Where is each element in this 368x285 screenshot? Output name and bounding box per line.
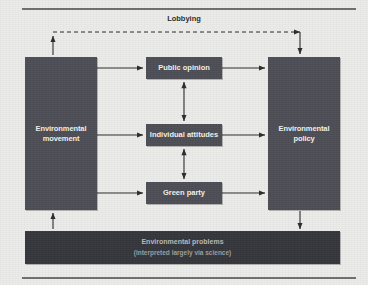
node-environmental-movement[interactable]: Environmental movement: [25, 57, 97, 210]
node-green-party[interactable]: Green party: [146, 182, 222, 204]
node-environmental-problems[interactable]: Environmental problems (interpreted larg…: [25, 231, 340, 264]
node-problems-line2: (interpreted largely via science): [134, 249, 232, 257]
node-public-opinion-label: Public opinion: [158, 63, 210, 72]
node-environmental-policy[interactable]: Environmental policy: [268, 57, 340, 210]
diagram-canvas: Lobbying: [0, 0, 368, 285]
edge-lobbying: [53, 32, 300, 55]
lobbying-label: Lobbying: [0, 14, 368, 23]
node-public-opinion[interactable]: Public opinion: [146, 57, 222, 79]
node-individual-attitudes[interactable]: Individual attitudes: [146, 124, 222, 146]
node-movement-line1: Environmental: [36, 124, 87, 133]
node-individual-attitudes-label: Individual attitudes: [150, 130, 218, 139]
node-movement-line2: movement: [36, 134, 87, 143]
node-policy-line1: Environmental: [279, 124, 330, 133]
node-policy-line2: policy: [279, 134, 330, 143]
node-green-party-label: Green party: [163, 188, 205, 197]
node-problems-line1: Environmental problems: [141, 238, 223, 247]
